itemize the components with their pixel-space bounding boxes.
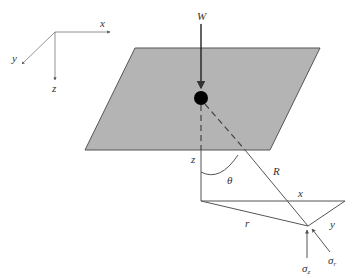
depth-label: z xyxy=(190,153,196,165)
axis-y-label: y xyxy=(11,52,17,64)
axis-z-label: z xyxy=(51,82,57,94)
load-label: W xyxy=(197,10,207,22)
coordinate-axes xyxy=(22,32,110,80)
radial-stress-arrow xyxy=(312,229,330,252)
radial-stress-label: σr xyxy=(328,254,336,268)
boussinesq-diagram: x y z W z θ R x r y σz σr xyxy=(0,0,361,278)
geometry-lines xyxy=(201,150,345,226)
x-offset-label: x xyxy=(297,187,303,199)
horizontal-distance-label: r xyxy=(245,217,250,229)
radial-distance-label: R xyxy=(272,165,280,177)
axis-x-label: x xyxy=(99,17,105,29)
point-load xyxy=(194,91,208,105)
angle-label: θ xyxy=(227,174,233,186)
y-offset-label: y xyxy=(329,218,335,230)
vertical-stress-label: σz xyxy=(302,262,310,276)
